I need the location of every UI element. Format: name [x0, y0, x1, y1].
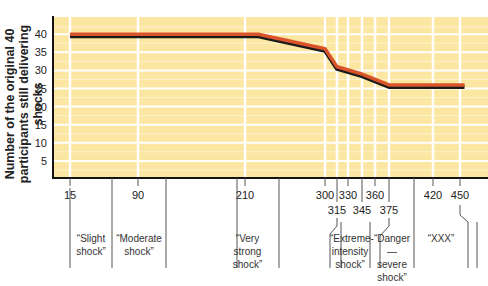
category-label-line: “Slight	[70, 232, 112, 245]
category-label: “Slightshock”	[70, 232, 112, 258]
category-label-line: “XXX”	[414, 232, 468, 245]
x-tick-label: 360	[366, 189, 384, 201]
category-label-line: intensity	[330, 245, 370, 258]
y-axis-label-line-2: participants still delivering shocks	[17, 18, 45, 190]
category-label-line: shock”	[70, 245, 112, 258]
category-label: “XXX”	[414, 232, 468, 245]
x-tick-label: 330	[339, 189, 357, 201]
category-label: “Extreme-intensityshock”	[330, 232, 370, 271]
category-label-line: “Moderate	[112, 232, 166, 245]
x-tick-label: 315	[328, 204, 346, 216]
x-tick-label: 210	[236, 189, 254, 201]
category-label-line: “Extreme-	[330, 232, 370, 245]
category-label-line: “Danger—	[370, 232, 414, 258]
category-label: “Verystrongshock”	[220, 232, 275, 271]
category-label-line: strong	[220, 245, 275, 258]
category-label: “Moderateshock”	[112, 232, 166, 258]
category-label-line: shock”	[370, 271, 414, 284]
category-label-line: “Very	[220, 232, 275, 245]
category-label-line: severe	[370, 258, 414, 271]
y-axis-label: Number of the original 40 participants s…	[3, 18, 45, 190]
category-label-line: shock”	[330, 258, 370, 271]
x-tick-label: 90	[132, 189, 144, 201]
x-tick-label: 450	[451, 189, 469, 201]
x-tick-label: 375	[380, 204, 398, 216]
category-label: “Danger—severeshock”	[370, 232, 414, 284]
x-tick-labels: 1590210300330360420450315345375	[64, 178, 469, 216]
category-label-line: shock”	[112, 245, 166, 258]
x-tick-label: 300	[316, 189, 334, 201]
x-tick-label: 345	[353, 204, 371, 216]
x-tick-label: 420	[424, 189, 442, 201]
y-axis-label-line-1: Number of the original 40	[3, 18, 17, 190]
category-label-line: shock”	[220, 258, 275, 271]
